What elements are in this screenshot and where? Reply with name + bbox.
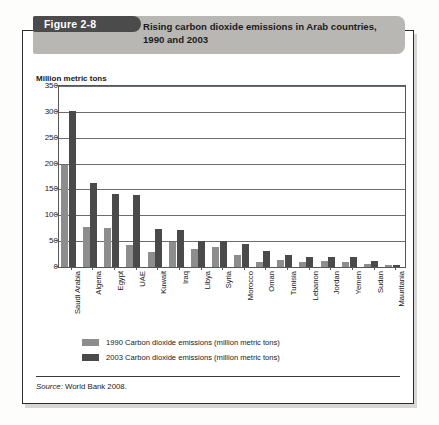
y-tick-mark	[55, 214, 58, 215]
legend-item: 2003 Carbon dioxide emissions (million m…	[82, 351, 280, 363]
x-tick-mark	[244, 267, 245, 270]
x-tick-mark	[352, 267, 353, 270]
x-axis-label: Iraq	[181, 271, 190, 284]
bar-group	[276, 86, 298, 267]
plot-area	[58, 85, 406, 268]
bar-group	[103, 86, 125, 267]
bar	[104, 228, 111, 267]
bar	[212, 247, 219, 267]
source-label: Source:	[36, 382, 63, 391]
bar	[69, 111, 76, 267]
y-tick-mark	[55, 111, 58, 112]
x-axis-label: Yemen	[354, 271, 363, 294]
y-tick-mark	[55, 266, 58, 267]
source-divider	[36, 376, 400, 377]
bar	[306, 257, 313, 267]
bar-group	[255, 86, 277, 267]
bar	[234, 255, 241, 267]
bar	[321, 261, 328, 267]
x-axis-label: UAE	[138, 271, 147, 287]
bar-group	[363, 86, 385, 267]
x-axis-label: Tunisia	[289, 271, 298, 295]
x-tick-mark	[201, 267, 202, 270]
bar	[393, 265, 400, 267]
bar	[126, 245, 133, 267]
legend-swatch	[82, 339, 99, 346]
x-tick-mark	[71, 267, 72, 270]
bar	[285, 255, 292, 267]
bar	[364, 264, 371, 267]
x-tick-mark	[287, 267, 288, 270]
x-axis-label: Mauritania	[397, 271, 406, 306]
legend-item: 1990 Carbon dioxide emissions (million m…	[82, 336, 280, 348]
bar	[263, 251, 270, 267]
bar-group	[168, 86, 190, 267]
bar	[191, 249, 198, 267]
bar	[148, 252, 155, 267]
bar	[155, 229, 162, 267]
bar-group	[320, 86, 342, 267]
x-axis-label: Libya	[203, 271, 212, 289]
x-axis-label: Kuwait	[159, 271, 168, 294]
x-axis-label: Syria	[224, 271, 233, 288]
bar	[385, 265, 392, 267]
x-axis-label: Jordan	[332, 271, 341, 294]
bar	[83, 227, 90, 267]
bar	[350, 257, 357, 267]
x-tick-mark	[395, 267, 396, 270]
figure-title-line: Rising carbon dioxide emissions in Arab …	[143, 21, 401, 34]
x-axis-label: Saudi Arabia	[73, 271, 82, 314]
y-axis: 050100150200250300350	[26, 85, 58, 268]
bar	[342, 262, 349, 267]
x-axis-label: Sudan	[376, 271, 385, 293]
figure-title: Rising carbon dioxide emissions in Arab …	[143, 21, 401, 46]
x-axis-labels: Saudi ArabiaAlgeriaEgyptUAEKuwaitIraqLib…	[58, 271, 406, 327]
bar-group	[82, 86, 104, 267]
x-tick-mark	[114, 267, 115, 270]
bar-group	[125, 86, 147, 267]
legend-label: 2003 Carbon dioxide emissions (million m…	[106, 353, 280, 362]
bar	[371, 261, 378, 267]
bar	[133, 195, 140, 267]
x-tick-mark	[330, 267, 331, 270]
y-tick-mark	[55, 137, 58, 138]
bar	[256, 262, 263, 267]
bar-group	[190, 86, 212, 267]
y-tick-mark	[55, 188, 58, 189]
bar-group	[384, 86, 406, 267]
figure-title-line: 1990 and 2003	[143, 34, 401, 47]
bar	[169, 242, 176, 267]
x-tick-mark	[92, 267, 93, 270]
bar-group	[147, 86, 169, 267]
bar	[177, 230, 184, 267]
x-axis-label: Algeria	[94, 271, 103, 295]
x-tick-mark	[157, 267, 158, 270]
figure-root: Figure 2-8 Rising carbon dioxide emissio…	[0, 0, 439, 425]
x-axis-label: Morocco	[246, 271, 255, 300]
legend-label: 1990 Carbon dioxide emissions (million m…	[106, 338, 280, 347]
bar	[299, 262, 306, 267]
bar	[198, 241, 205, 267]
bar	[112, 194, 119, 267]
bar-group	[233, 86, 255, 267]
x-axis-label: Lebanon	[311, 271, 320, 301]
y-tick-mark	[55, 85, 58, 86]
bar	[277, 260, 284, 267]
bar-group	[211, 86, 233, 267]
bar	[90, 183, 97, 267]
x-tick-mark	[179, 267, 180, 270]
y-tick-mark	[55, 240, 58, 241]
source-note: Source: World Bank 2008.	[36, 382, 127, 391]
x-tick-mark	[265, 267, 266, 270]
x-axis-label: Egypt	[116, 271, 125, 290]
x-axis-label: Oman	[267, 271, 276, 292]
x-tick-mark	[136, 267, 137, 270]
legend-swatch	[82, 354, 99, 361]
x-tick-mark	[222, 267, 223, 270]
chart-legend: 1990 Carbon dioxide emissions (million m…	[82, 336, 280, 366]
x-tick-mark	[309, 267, 310, 270]
bar-group	[298, 86, 320, 267]
bar	[328, 257, 335, 267]
figure-number-label: Figure 2-8	[44, 18, 96, 30]
bar-group	[60, 86, 82, 267]
